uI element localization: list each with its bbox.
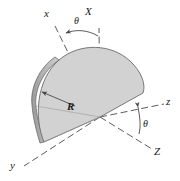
- theta-top-arc: [66, 31, 98, 36]
- figure-container: x y z X Z θ θ R: [0, 0, 180, 181]
- angle-theta-top-label: θ: [74, 16, 79, 26]
- theta-bottom-arc: [138, 107, 140, 134]
- radius-label: R: [67, 101, 74, 112]
- coordinate-diagram-svg: [0, 0, 180, 181]
- axis-z-lower-label: z: [166, 96, 170, 107]
- axis-x-lower-label: x: [44, 8, 49, 19]
- axis-X-upper-label: X: [85, 6, 92, 17]
- angle-theta-top: [66, 31, 98, 36]
- angle-theta-bottom: [138, 107, 140, 134]
- axis-Z-upper-label: Z: [154, 146, 160, 157]
- axis-y-lower-label: y: [10, 160, 15, 171]
- angle-theta-bottom-label: θ: [143, 119, 148, 129]
